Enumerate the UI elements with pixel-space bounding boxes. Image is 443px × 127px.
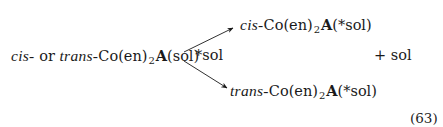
product-cis: cis-Co(en)2A(*sol) bbox=[240, 17, 372, 33]
product-cis-subscript: 2 bbox=[314, 24, 320, 35]
product-trans-prefix: trans- bbox=[230, 82, 269, 99]
product-trans-formula-tail: (*sol) bbox=[338, 83, 377, 99]
reactant-connector: or bbox=[35, 48, 60, 64]
product-cis-prefix: cis- bbox=[240, 16, 264, 33]
reactant: cis- or trans-Co(en)2A(sol) bbox=[11, 48, 199, 64]
reactant-prefix-cis: cis- bbox=[11, 47, 35, 64]
arrow-to-trans-product bbox=[184, 61, 227, 88]
product-cis-formula: Co(en) bbox=[264, 17, 313, 33]
product-cis-formula-tail: (*sol) bbox=[332, 17, 371, 33]
reactant-prefix-trans: trans- bbox=[59, 47, 98, 64]
product-trans-subscript: 2 bbox=[319, 90, 325, 101]
reagent-label: *sol bbox=[195, 48, 223, 63]
reactant-subscript: 2 bbox=[148, 55, 154, 66]
byproduct: + sol bbox=[374, 48, 412, 63]
product-trans-formula: Co(en) bbox=[269, 83, 318, 99]
product-trans: trans-Co(en)2A(*sol) bbox=[230, 83, 377, 99]
reactant-formula: Co(en) bbox=[98, 48, 147, 64]
equation-number: (63) bbox=[410, 112, 438, 126]
product-trans-ligand-a: A bbox=[326, 82, 337, 99]
product-cis-ligand-a: A bbox=[321, 16, 332, 33]
reactant-ligand-a: A bbox=[156, 47, 167, 64]
